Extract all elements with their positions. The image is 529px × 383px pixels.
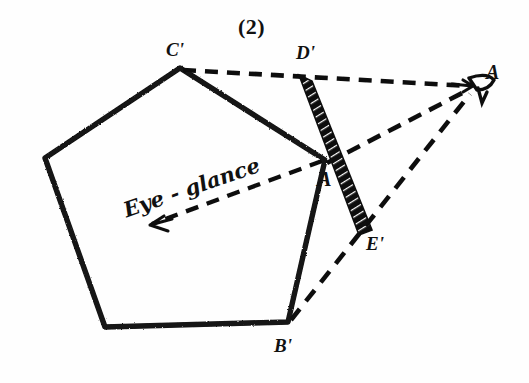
vertex-label-c-prime: C'	[166, 40, 184, 59]
picture-plane-band	[299, 75, 372, 235]
vertex-label-d-prime: D'	[296, 43, 315, 62]
vertex-label-b-prime: B'	[274, 336, 292, 355]
eye-point-label: A	[486, 62, 499, 82]
sightline-c-prime-to-eye	[183, 70, 470, 86]
sight-lines-group	[183, 70, 470, 320]
picture-plane-band-group	[299, 75, 372, 235]
figure-canvas: (2) C' D' B' E' A A Eye - glance	[0, 0, 529, 383]
vertex-label-a-prime: A	[317, 168, 332, 190]
diagram-svg	[0, 0, 529, 383]
sightline-b-prime-to-eye	[291, 94, 470, 320]
vertex-label-e-prime: E'	[366, 234, 384, 253]
figure-number-label: (2)	[238, 16, 265, 38]
